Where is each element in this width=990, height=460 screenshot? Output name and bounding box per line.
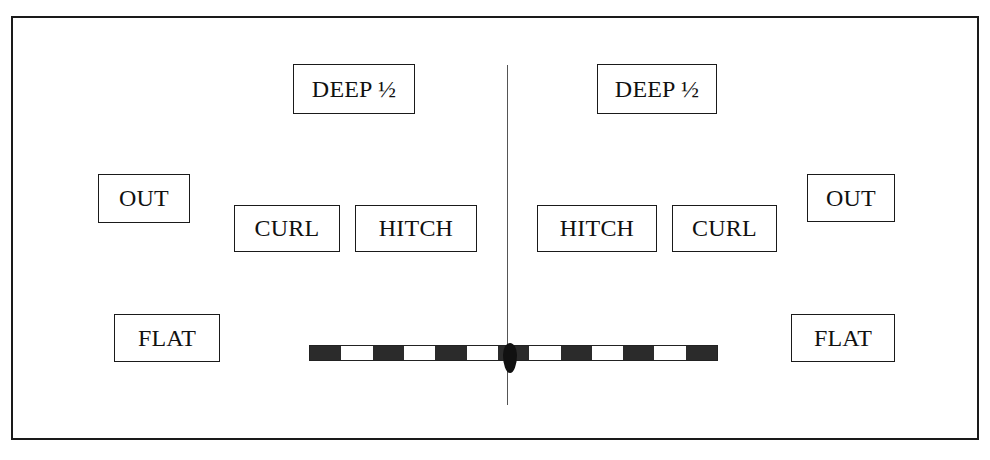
los-segment	[686, 346, 717, 360]
right-deep-half-zone: DEEP ½	[597, 64, 717, 114]
los-segment	[529, 346, 560, 360]
right-flat-zone: FLAT	[791, 314, 895, 362]
left-deep-half-zone: DEEP ½	[293, 64, 415, 114]
los-segment	[435, 346, 466, 360]
los-segment	[654, 346, 685, 360]
left-flat-zone: FLAT	[114, 314, 220, 362]
diagram-frame	[11, 16, 979, 440]
right-curl-zone: CURL	[672, 205, 777, 252]
los-segment	[404, 346, 435, 360]
los-segment	[592, 346, 623, 360]
los-segment	[623, 346, 654, 360]
los-segment	[310, 346, 341, 360]
los-segment	[373, 346, 404, 360]
right-hitch-zone: HITCH	[537, 205, 657, 252]
left-out-zone: OUT	[98, 174, 190, 223]
los-segment	[341, 346, 372, 360]
right-out-zone: OUT	[807, 174, 895, 222]
left-hitch-zone: HITCH	[355, 205, 477, 252]
left-curl-zone: CURL	[234, 205, 340, 252]
los-segment	[561, 346, 592, 360]
los-segment	[467, 346, 498, 360]
